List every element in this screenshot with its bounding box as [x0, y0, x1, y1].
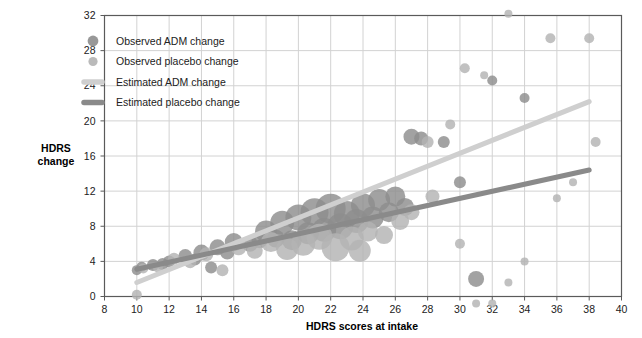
- legend-label: Estimated placebo change: [116, 96, 240, 108]
- x-tick-label: 12: [163, 303, 175, 315]
- y-tick-label: 0: [90, 290, 96, 302]
- y-tick-label: 4: [90, 255, 96, 267]
- data-point: [591, 137, 601, 147]
- data-point: [504, 278, 512, 286]
- x-tick-label: 38: [583, 303, 595, 315]
- data-point: [445, 119, 455, 129]
- y-axis-title-line1: HDRS: [41, 142, 71, 154]
- data-point: [521, 257, 529, 265]
- y-tick-label: 8: [90, 220, 96, 232]
- legend-label: Estimated ADM change: [116, 76, 226, 88]
- y-tick-label: 16: [84, 150, 96, 162]
- chart-figure: 810121416182022242628303234363840 048121…: [0, 0, 642, 338]
- data-point: [132, 290, 142, 300]
- data-point: [358, 222, 378, 242]
- data-point: [454, 176, 466, 188]
- data-point: [460, 63, 470, 73]
- y-axis-title-line2: change: [38, 155, 75, 167]
- data-point: [472, 300, 480, 308]
- x-axis-title: HDRS scores at intake: [306, 320, 418, 332]
- data-point: [488, 300, 496, 308]
- legend-label: Observed ADM change: [116, 35, 225, 47]
- data-point: [205, 262, 217, 274]
- data-point: [468, 271, 484, 287]
- x-tick-label: 14: [196, 303, 208, 315]
- x-tick-label: 26: [389, 303, 401, 315]
- x-tick-label: 24: [357, 303, 369, 315]
- data-point: [553, 194, 561, 202]
- y-tick-label: 12: [84, 185, 96, 197]
- data-point: [520, 93, 530, 103]
- data-point: [504, 10, 512, 18]
- legend-marker-adm: [88, 36, 99, 47]
- data-point: [349, 240, 371, 262]
- legend-marker-placebo: [88, 57, 97, 66]
- x-tick-label: 10: [131, 303, 143, 315]
- legend-label: Observed placebo change: [116, 55, 239, 67]
- data-point: [455, 239, 465, 249]
- data-point: [422, 136, 434, 148]
- x-tick-label: 34: [519, 303, 531, 315]
- data-point: [584, 33, 594, 43]
- x-tick-label: 8: [102, 303, 108, 315]
- x-tick-label: 18: [260, 303, 272, 315]
- x-tick-label: 28: [422, 303, 434, 315]
- data-point: [545, 33, 555, 43]
- x-tick-label: 22: [325, 303, 337, 315]
- y-tick-label: 20: [84, 115, 96, 127]
- data-point: [216, 264, 228, 276]
- x-tick-label: 30: [454, 303, 466, 315]
- data-point: [375, 226, 393, 244]
- x-tick-label: 16: [228, 303, 240, 315]
- x-tick-label: 40: [616, 303, 628, 315]
- data-point: [438, 136, 450, 148]
- scatter-plot: 810121416182022242628303234363840 048121…: [0, 0, 642, 338]
- x-tick-label: 20: [293, 303, 305, 315]
- data-point: [480, 71, 488, 79]
- data-point: [569, 178, 577, 186]
- x-tick-label: 36: [551, 303, 563, 315]
- y-tick-label: 32: [84, 9, 96, 21]
- data-point: [487, 75, 497, 85]
